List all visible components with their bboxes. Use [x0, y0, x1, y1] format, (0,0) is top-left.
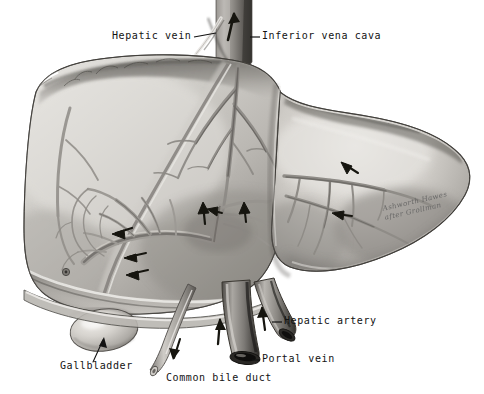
label-hepatic-vein: Hepatic vein — [112, 31, 191, 41]
label-gallbladder: Gallbladder — [60, 361, 133, 371]
label-portal-vein: Portal vein — [262, 354, 335, 364]
label-hepatic-artery: Hepatic artery — [284, 316, 377, 326]
label-common-bile-duct: Common bile duct — [166, 373, 272, 383]
liver-anatomy-figure: Hepatic vein Inferior vena cava Hepatic … — [0, 0, 484, 394]
label-inferior-vena-cava: Inferior vena cava — [262, 31, 381, 41]
